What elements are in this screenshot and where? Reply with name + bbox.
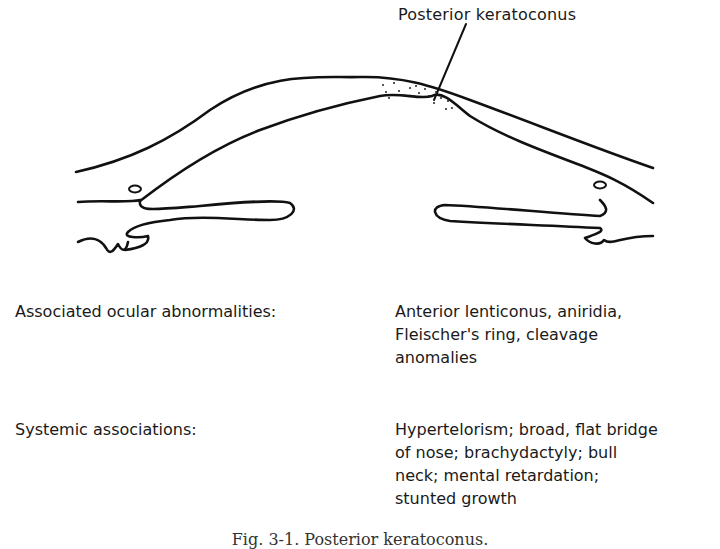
callout-leader-line [434,24,466,100]
desc-line: Hypertelorism; broad, flat bridge [395,418,715,441]
ocular-abnormalities-term: Associated ocular abnormalities: [15,300,276,323]
cornea-diagram: Posterior keratoconus [0,0,720,270]
systemic-associations-term: Systemic associations: [15,418,197,441]
right-schlemm-canal [594,182,606,189]
desc-line: anomalies [395,346,715,369]
left-schlemm-canal [129,186,141,193]
right-iris [435,200,653,244]
desc-line: stunted growth [395,487,715,510]
cornea-cross-section-illustration [0,0,720,270]
left-angle-squiggle [78,239,128,252]
desc-line: of nose; brachydactyly; bull [395,441,715,464]
posterior-cornea-curve [140,95,653,203]
left-iris [78,200,294,250]
desc-line: Fleischer's ring, cleavage [395,323,715,346]
systemic-associations-desc: Hypertelorism; broad, flat bridge of nos… [395,418,715,510]
anterior-cornea-curve [76,77,653,172]
callout-label: Posterior keratoconus [398,5,576,24]
figure-caption: Fig. 3-1. Posterior keratoconus. [0,530,720,549]
desc-line: neck; mental retardation; [395,464,715,487]
desc-line: Anterior lenticonus, aniridia, [395,300,715,323]
ocular-abnormalities-desc: Anterior lenticonus, aniridia, Fleischer… [395,300,715,369]
